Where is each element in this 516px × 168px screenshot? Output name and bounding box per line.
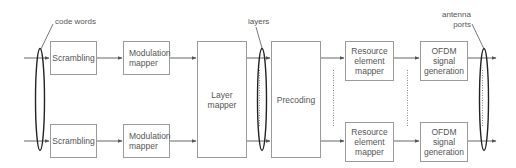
precoding-block: Precoding	[271, 41, 321, 158]
scrambling-block-top: Scrambling	[50, 41, 97, 75]
antenna-ports-leader	[472, 24, 484, 49]
resource-element-mapper-block-bottom: Resource element mapper	[345, 122, 394, 162]
antenna-ports-ellipse	[480, 49, 489, 151]
ofdm-signal-generation-block-top: OFDM signal generation	[420, 41, 468, 81]
layers-ellipse	[258, 49, 267, 151]
scrambling-block-bottom: Scrambling	[50, 124, 97, 158]
code-words-label: code words	[55, 17, 96, 27]
layer-mapper-block: Layer mapper	[197, 41, 247, 158]
antenna-ports-label: antenna ports	[442, 10, 471, 29]
modulation-mapper-block-bottom: Modulation mapper	[123, 124, 170, 158]
layers-leader	[256, 27, 262, 48]
resource-element-mapper-block-top: Resource element mapper	[345, 41, 394, 81]
code-words-ellipse	[36, 49, 45, 151]
layers-label: layers	[248, 17, 269, 27]
ofdm-signal-generation-block-bottom: OFDM signal generation	[420, 122, 468, 162]
modulation-mapper-block-top: Modulation mapper	[123, 41, 170, 75]
lte-processing-diagram: code words layers antenna ports Scrambli…	[0, 0, 516, 168]
